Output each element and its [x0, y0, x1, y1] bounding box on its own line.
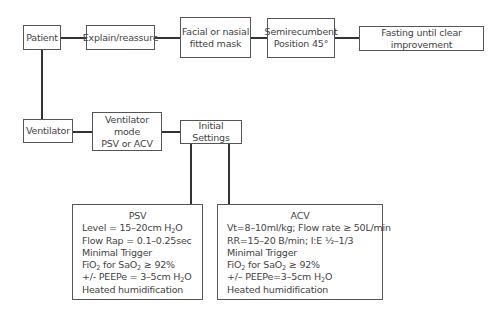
- explain-reassure-box: Explain/reassure: [86, 25, 155, 50]
- fasting-label: Fasting until clear improvement: [360, 27, 483, 51]
- connector-explain-mask: [155, 37, 180, 39]
- connector-mode-initial: [162, 131, 180, 133]
- patient-box: Patient: [23, 25, 61, 50]
- fitted-mask-label-line2: fitted mask: [190, 38, 242, 50]
- semirecumbent-position-box: Semirecumbent Position 45°: [267, 18, 335, 58]
- initial-settings-label: Initial Settings: [181, 120, 241, 144]
- acv-humidification: Heated humidification: [227, 284, 382, 296]
- acv-fio2: FiO2 for SaO2 ≥ 92%: [227, 259, 382, 271]
- ventilator-box: Ventilator: [23, 119, 73, 143]
- ventilator-mode-label-line1: Ventilator mode: [93, 114, 161, 138]
- psv-flow-rap: Flow Rap = 0.1–0.25sec: [82, 235, 202, 247]
- patient-label: Patient: [26, 32, 58, 44]
- initial-settings-box: Initial Settings: [180, 120, 242, 144]
- psv-humidification: Heated humidification: [82, 284, 202, 296]
- acv-title: ACV: [218, 210, 382, 222]
- psv-peep: +/- PEEPe = 3–5cm H2O: [82, 271, 202, 283]
- acv-trigger: Minimal Trigger: [227, 247, 382, 259]
- position-label-line2: Position 45°: [274, 38, 328, 50]
- connector-patient-ventilator: [41, 50, 43, 119]
- acv-settings-box: ACV Vt=8–10ml/kg; Flow rate ≥ 50L/min RR…: [217, 204, 383, 300]
- psv-trigger: Minimal Trigger: [82, 247, 202, 259]
- fitted-mask-label-line1: Facial or nasial: [182, 26, 249, 38]
- acv-peep: +/– PEEPe=3–5cm H2O: [227, 271, 382, 283]
- psv-level: Level = 15–20cm H2O: [82, 222, 202, 234]
- fasting-box: Fasting until clear improvement: [359, 26, 484, 51]
- explain-reassure-label: Explain/reassure: [83, 32, 159, 44]
- psv-fio2: FiO2 for SaO2 ≥ 92%: [82, 259, 202, 271]
- fitted-mask-box: Facial or nasial fitted mask: [180, 17, 251, 58]
- connector-position-fasting: [335, 37, 359, 39]
- psv-settings-box: PSV Level = 15–20cm H2O Flow Rap = 0.1–0…: [72, 204, 203, 300]
- psv-title: PSV: [73, 210, 202, 222]
- connector-initial-psv: [190, 144, 192, 205]
- connector-ventilator-mode: [73, 131, 92, 133]
- connector-initial-acv: [228, 144, 230, 205]
- ventilator-mode-box: Ventilator mode PSV or ACV: [92, 112, 162, 151]
- ventilator-mode-label-line2: PSV or ACV: [101, 138, 152, 150]
- acv-tidal-volume: Vt=8–10ml/kg; Flow rate ≥ 50L/min: [227, 222, 382, 234]
- acv-respiratory-rate: RR=15–20 B/min; I:E ½–1/3: [227, 235, 382, 247]
- position-label-line1: Semirecumbent: [265, 26, 338, 38]
- ventilator-label: Ventilator: [26, 125, 70, 137]
